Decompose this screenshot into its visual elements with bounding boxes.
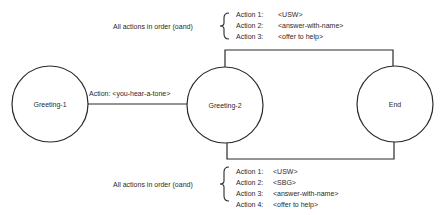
bottom-action-row: Action 1: <USW> <box>236 166 386 177</box>
action-label: Action 4: <box>236 199 263 210</box>
top-action-row: Action 3: <offer to help> <box>236 31 386 42</box>
action-value: <offer to help> <box>273 199 318 210</box>
action-label: Action 1: <box>236 9 263 20</box>
top-group-caption: All actions in order (oand) <box>113 21 193 32</box>
action-label: Action 1: <box>236 166 263 177</box>
top-action-row: Action 2: <answer-with-name> <box>236 20 386 31</box>
action-value: <answer-with-name> <box>273 188 338 199</box>
action-label: Action 2: <box>236 177 263 188</box>
edge-top-route <box>225 50 393 67</box>
action-label: Action 3: <box>236 188 263 199</box>
bottom-action-row: Action 3: <answer-with-name> <box>236 188 386 199</box>
node-label-greeting-2: Greeting-2 <box>208 102 241 109</box>
top-action-row: Action 1: <USW> <box>236 9 386 20</box>
edge-label-you-hear-a-tone: Action: <you-hear-a-tone> <box>89 88 170 99</box>
brace-bottom-icon <box>220 167 229 201</box>
action-label: Action 3: <box>236 31 263 42</box>
bottom-action-row: Action 2: <SBG> <box>236 177 386 188</box>
action-label: Action 2: <box>236 20 263 31</box>
edge-bottom-route <box>227 142 394 159</box>
action-value: <answer-with-name> <box>278 20 343 31</box>
node-label-end: End <box>389 101 401 108</box>
action-value: <USW> <box>278 9 303 20</box>
action-value: <USW> <box>273 166 298 177</box>
brace-top-icon <box>220 13 229 39</box>
action-value: <SBG> <box>273 177 296 188</box>
node-label-greeting-1: Greeting-1 <box>33 101 66 108</box>
bottom-group-caption: All actions in order (oand) <box>113 179 193 190</box>
action-value: <offer to help> <box>278 31 323 42</box>
bottom-action-row: Action 4: <offer to help> <box>236 199 386 210</box>
